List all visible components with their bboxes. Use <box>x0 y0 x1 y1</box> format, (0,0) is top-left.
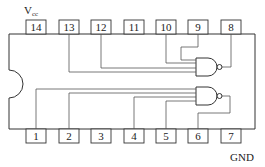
pin-8: 8 <box>221 20 241 34</box>
pin-12: 12 <box>91 20 111 34</box>
pin-10: 10 <box>156 20 176 34</box>
svg-text:3: 3 <box>98 130 104 142</box>
svg-text:5: 5 <box>163 130 169 142</box>
pin-2: 2 <box>59 129 79 143</box>
ic-body <box>9 34 255 129</box>
bottom-pins: 1 2 3 4 5 6 7 <box>26 129 241 143</box>
svg-text:10: 10 <box>161 21 173 33</box>
pin-7: 7 <box>221 129 241 143</box>
gnd-label: GND <box>230 151 254 163</box>
pin-3: 3 <box>91 129 111 143</box>
svg-text:8: 8 <box>228 21 234 33</box>
pin-5: 5 <box>156 129 176 143</box>
ic-pinout-diagram: Vcc GND 14 13 12 11 10 9 <box>0 0 265 167</box>
pin-4: 4 <box>124 129 144 143</box>
svg-text:6: 6 <box>195 130 201 142</box>
nand-gate-upper <box>196 58 222 76</box>
svg-text:14: 14 <box>31 21 43 33</box>
svg-text:2: 2 <box>66 130 72 142</box>
svg-text:13: 13 <box>64 21 76 33</box>
svg-text:1: 1 <box>33 130 39 142</box>
pin-14: 14 <box>26 20 46 34</box>
vcc-label: Vcc <box>24 4 38 18</box>
svg-text:11: 11 <box>129 21 140 33</box>
pin-13: 13 <box>59 20 79 34</box>
svg-text:9: 9 <box>195 21 201 33</box>
pin-6: 6 <box>188 129 208 143</box>
svg-text:12: 12 <box>96 21 107 33</box>
pin-9: 9 <box>188 20 208 34</box>
pin-11: 11 <box>124 20 144 34</box>
top-pins: 14 13 12 11 10 9 8 <box>26 20 241 34</box>
svg-text:4: 4 <box>131 130 137 142</box>
pin-1: 1 <box>26 129 46 143</box>
svg-text:7: 7 <box>228 130 234 142</box>
nand-gate-lower <box>196 87 222 105</box>
